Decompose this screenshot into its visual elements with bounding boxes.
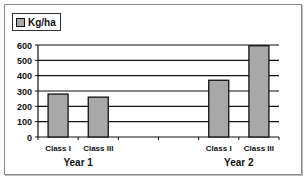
group-label: Year 1: [63, 157, 93, 168]
bar: [209, 80, 229, 137]
group-label: Year 2: [224, 157, 254, 168]
y-tick-label: 500: [17, 56, 32, 66]
y-tick-label: 300: [17, 87, 32, 97]
bar: [48, 94, 68, 137]
y-tick-label: 200: [17, 102, 32, 112]
bar-chart: 0100200300400500600Class IClass IIIClass…: [0, 0, 307, 180]
x-tick-label: Class III: [244, 144, 274, 153]
x-tick-label: Class I: [206, 144, 232, 153]
y-tick-label: 400: [17, 71, 32, 81]
y-tick-label: 0: [27, 133, 32, 143]
x-tick-label: Class I: [45, 144, 71, 153]
y-tick-label: 100: [17, 117, 32, 127]
y-tick-label: 600: [17, 41, 32, 51]
x-tick-label: Class III: [83, 144, 113, 153]
bar: [88, 97, 108, 137]
bar: [249, 46, 269, 137]
